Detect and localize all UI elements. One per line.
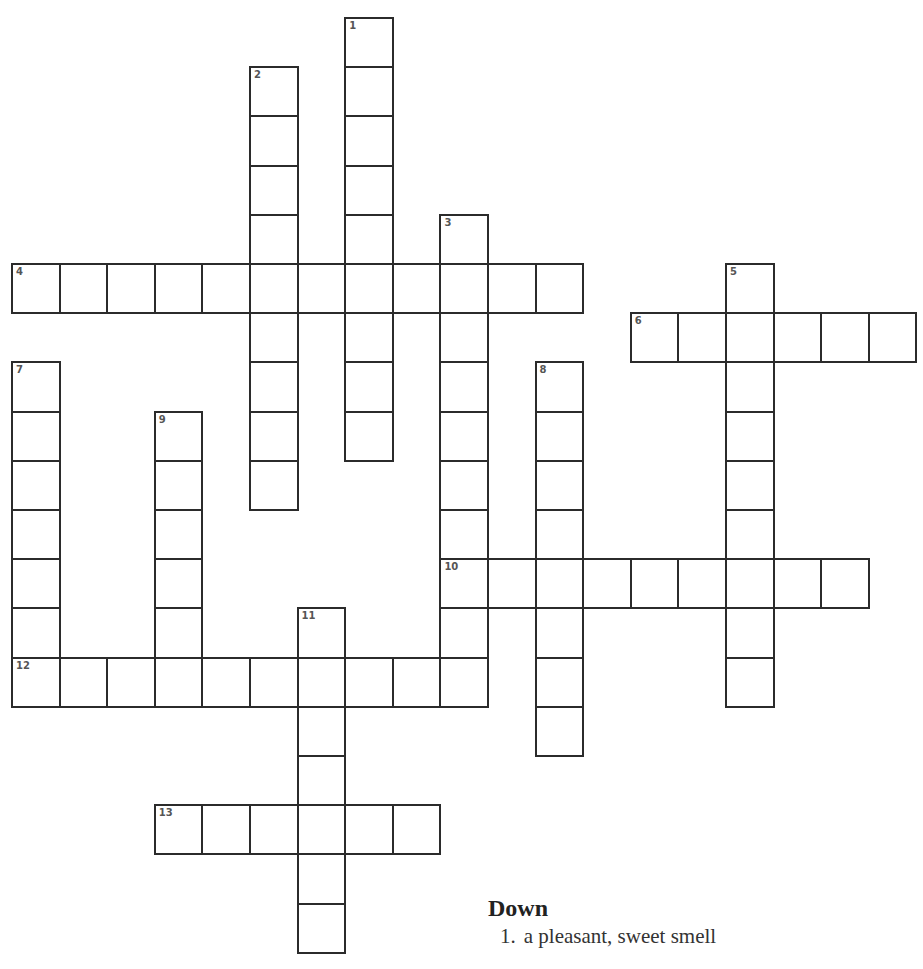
clue-number-label: 9 bbox=[159, 414, 166, 426]
grid-cell[interactable] bbox=[725, 607, 775, 658]
grid-cell[interactable] bbox=[201, 657, 251, 708]
grid-cell[interactable] bbox=[725, 509, 775, 560]
grid-cell[interactable] bbox=[773, 558, 823, 609]
grid-cell[interactable] bbox=[154, 558, 204, 609]
grid-cell[interactable] bbox=[106, 657, 156, 708]
grid-cell[interactable] bbox=[439, 361, 489, 412]
grid-cell[interactable] bbox=[11, 558, 61, 609]
grid-cell[interactable]: 8 bbox=[535, 361, 585, 412]
grid-cell[interactable] bbox=[249, 361, 299, 412]
grid-cell[interactable] bbox=[820, 558, 870, 609]
grid-cell[interactable] bbox=[11, 607, 61, 658]
grid-cell[interactable]: 10 bbox=[439, 558, 489, 609]
grid-cell[interactable] bbox=[630, 558, 680, 609]
grid-cell[interactable] bbox=[677, 558, 727, 609]
grid-cell[interactable] bbox=[154, 509, 204, 560]
grid-cell[interactable] bbox=[11, 411, 61, 462]
grid-cell[interactable] bbox=[439, 411, 489, 462]
grid-cell[interactable] bbox=[249, 804, 299, 855]
grid-cell[interactable] bbox=[59, 657, 109, 708]
grid-cell[interactable] bbox=[725, 657, 775, 708]
grid-cell[interactable] bbox=[249, 411, 299, 462]
grid-cell[interactable] bbox=[725, 361, 775, 412]
grid-cell[interactable] bbox=[392, 657, 442, 708]
grid-cell[interactable] bbox=[535, 411, 585, 462]
grid-cell[interactable] bbox=[249, 657, 299, 708]
grid-cell[interactable]: 13 bbox=[154, 804, 204, 855]
grid-cell[interactable] bbox=[344, 361, 394, 412]
grid-cell[interactable]: 9 bbox=[154, 411, 204, 462]
grid-cell[interactable] bbox=[249, 115, 299, 166]
grid-cell[interactable] bbox=[344, 165, 394, 216]
grid-cell[interactable]: 3 bbox=[439, 214, 489, 265]
grid-cell[interactable]: 4 bbox=[11, 263, 61, 314]
grid-cell[interactable] bbox=[535, 558, 585, 609]
grid-cell[interactable] bbox=[535, 706, 585, 757]
grid-cell[interactable] bbox=[297, 706, 347, 757]
grid-cell[interactable] bbox=[439, 509, 489, 560]
grid-cell[interactable] bbox=[439, 263, 489, 314]
grid-cell[interactable] bbox=[725, 558, 775, 609]
grid-cell[interactable]: 7 bbox=[11, 361, 61, 412]
grid-cell[interactable] bbox=[297, 853, 347, 904]
grid-cell[interactable] bbox=[868, 312, 918, 363]
grid-cell[interactable] bbox=[11, 509, 61, 560]
grid-cell[interactable]: 6 bbox=[630, 312, 680, 363]
grid-cell[interactable] bbox=[535, 509, 585, 560]
grid-cell[interactable] bbox=[344, 411, 394, 462]
grid-cell[interactable] bbox=[487, 263, 537, 314]
grid-cell[interactable] bbox=[439, 607, 489, 658]
grid-cell[interactable]: 5 bbox=[725, 263, 775, 314]
grid-cell[interactable]: 2 bbox=[249, 66, 299, 117]
grid-cell[interactable] bbox=[535, 607, 585, 658]
grid-cell[interactable] bbox=[582, 558, 632, 609]
grid-cell[interactable] bbox=[677, 312, 727, 363]
grid-cell[interactable] bbox=[201, 804, 251, 855]
grid-cell[interactable]: 1 bbox=[344, 17, 394, 68]
grid-cell[interactable] bbox=[535, 460, 585, 511]
grid-cell[interactable] bbox=[297, 263, 347, 314]
grid-cell[interactable] bbox=[344, 312, 394, 363]
grid-cell[interactable] bbox=[344, 66, 394, 117]
grid-cell[interactable] bbox=[297, 755, 347, 806]
grid-cell[interactable] bbox=[725, 411, 775, 462]
grid-cell[interactable] bbox=[344, 115, 394, 166]
grid-cell[interactable] bbox=[725, 312, 775, 363]
grid-cell[interactable] bbox=[249, 460, 299, 511]
grid-cell[interactable] bbox=[154, 607, 204, 658]
grid-cell[interactable]: 11 bbox=[297, 607, 347, 658]
grid-cell[interactable] bbox=[249, 214, 299, 265]
grid-cell[interactable] bbox=[439, 657, 489, 708]
grid-cell[interactable] bbox=[11, 460, 61, 511]
grid-cell[interactable] bbox=[344, 804, 394, 855]
grid-cell[interactable] bbox=[725, 460, 775, 511]
grid-cell[interactable] bbox=[106, 263, 156, 314]
grid-cell[interactable] bbox=[439, 312, 489, 363]
grid-cell[interactable] bbox=[249, 263, 299, 314]
grid-cell[interactable] bbox=[773, 312, 823, 363]
grid-cell[interactable] bbox=[249, 312, 299, 363]
grid-cell[interactable] bbox=[487, 558, 537, 609]
grid-cell[interactable] bbox=[59, 263, 109, 314]
grid-cell[interactable] bbox=[535, 263, 585, 314]
clue-number-label: 6 bbox=[635, 315, 642, 327]
grid-cell[interactable] bbox=[344, 263, 394, 314]
grid-cell[interactable] bbox=[392, 263, 442, 314]
grid-cell[interactable] bbox=[344, 214, 394, 265]
grid-cell[interactable] bbox=[535, 657, 585, 708]
grid-cell[interactable] bbox=[439, 460, 489, 511]
grid-cell[interactable] bbox=[297, 657, 347, 708]
grid-cell[interactable] bbox=[249, 165, 299, 216]
grid-cell[interactable] bbox=[154, 657, 204, 708]
grid-cell[interactable] bbox=[154, 263, 204, 314]
grid-cell[interactable]: 12 bbox=[11, 657, 61, 708]
grid-cell[interactable] bbox=[820, 312, 870, 363]
grid-cell[interactable] bbox=[201, 263, 251, 314]
grid-cell[interactable] bbox=[154, 460, 204, 511]
down-heading: Down bbox=[488, 893, 716, 923]
grid-cell[interactable] bbox=[297, 903, 347, 954]
grid-cell[interactable] bbox=[297, 804, 347, 855]
grid-cell[interactable] bbox=[392, 804, 442, 855]
grid-cell[interactable] bbox=[344, 657, 394, 708]
clue-number-label: 5 bbox=[730, 266, 737, 278]
